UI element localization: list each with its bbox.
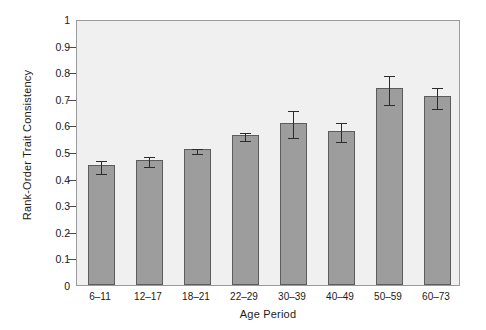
y-axis-tick-label: 1: [30, 14, 70, 26]
y-axis-tick-mark: [68, 47, 76, 48]
bar: [280, 123, 307, 285]
error-bar-cap-lower: [240, 141, 251, 142]
x-axis-tick-label: 50–59: [374, 291, 402, 302]
error-bar-cap-lower: [336, 142, 347, 143]
error-bar-line: [437, 88, 438, 109]
error-bar-line: [389, 76, 390, 105]
bar: [328, 131, 355, 285]
x-axis-title: Age Period: [76, 308, 460, 320]
bar: [376, 88, 403, 285]
y-axis-tick-label: 0: [30, 280, 70, 292]
y-axis-tick-mark: [68, 206, 76, 207]
y-axis-tick-mark: [68, 73, 76, 74]
y-axis-tick-label: 0.5: [30, 147, 70, 159]
error-bar-cap-lower: [432, 109, 443, 110]
x-axis-tick-label: 22–29: [230, 291, 258, 302]
error-bar-cap-upper: [336, 123, 347, 124]
error-bar-line: [341, 123, 342, 142]
x-axis-tick-label: 30–39: [278, 291, 306, 302]
y-axis-tick-label: 0.7: [30, 94, 70, 106]
y-axis-tick-label: 0.1: [30, 253, 70, 265]
error-bar-cap-upper: [288, 111, 299, 112]
error-bar-cap-upper: [432, 88, 443, 89]
error-bar-line: [245, 133, 246, 141]
y-axis-tick-label: 0.2: [30, 227, 70, 239]
bar: [232, 135, 259, 285]
error-bar-line: [293, 111, 294, 138]
x-axis-tick-label: 40–49: [326, 291, 354, 302]
y-axis-tick-mark: [68, 180, 76, 181]
y-axis-tick-label: 0.4: [30, 174, 70, 186]
error-bar-cap-upper: [384, 76, 395, 77]
plot-area: [76, 20, 460, 286]
y-axis-tick-mark: [68, 126, 76, 127]
bar: [424, 96, 451, 285]
y-axis-tick-labels: 00.10.20.30.40.50.60.70.80.91: [26, 0, 70, 330]
error-bar-cap-upper: [96, 161, 107, 162]
error-bar-cap-upper: [240, 133, 251, 134]
error-bar-cap-lower: [144, 167, 155, 168]
error-bar-cap-lower: [288, 138, 299, 139]
y-axis-tick-mark: [68, 259, 76, 260]
y-axis-tick-mark: [68, 153, 76, 154]
y-axis-tick-label: 0.9: [30, 41, 70, 53]
error-bar-line: [101, 161, 102, 174]
x-axis-tick-label: 18–21: [182, 291, 210, 302]
error-bar-cap-lower: [192, 154, 203, 155]
error-bar-cap-lower: [96, 174, 107, 175]
x-axis-tick-label: 60–73: [422, 291, 450, 302]
error-bar-cap-lower: [384, 105, 395, 106]
y-axis-tick-label: 0.6: [30, 120, 70, 132]
bar: [184, 149, 211, 285]
y-axis-tick-label: 0.3: [30, 200, 70, 212]
error-bar-cap-upper: [192, 149, 203, 150]
error-bar-line: [149, 157, 150, 168]
bar-chart-figure: Rank-Order Trait Consistency 00.10.20.30…: [0, 0, 486, 330]
x-axis-tick-label: 12–17: [134, 291, 162, 302]
bar: [88, 165, 115, 285]
y-axis-tick-mark: [68, 233, 76, 234]
bar: [136, 160, 163, 285]
error-bar-cap-upper: [144, 157, 155, 158]
y-axis-tick-label: 0.8: [30, 67, 70, 79]
x-axis-tick-label: 6–11: [89, 291, 111, 302]
y-axis-tick-mark: [68, 100, 76, 101]
